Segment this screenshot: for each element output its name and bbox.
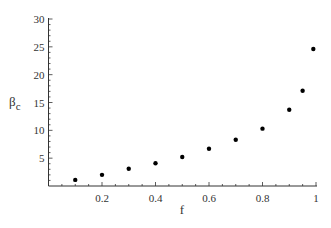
x-tick-label: 0.6 xyxy=(202,192,216,204)
y-axis-label: βc xyxy=(9,94,21,112)
scatter-chart: 0.20.40.60.8151015202530 f βc xyxy=(0,0,331,228)
axes: 0.20.40.60.8151015202530 xyxy=(34,13,319,204)
y-tick-label: 10 xyxy=(34,124,46,136)
data-point xyxy=(127,167,131,171)
x-tick-label: 0.8 xyxy=(256,192,270,204)
data-point xyxy=(100,173,104,177)
data-point xyxy=(180,155,184,159)
data-point xyxy=(73,178,77,182)
y-axis-label-subscript: c xyxy=(16,100,21,112)
data-points xyxy=(73,47,315,182)
x-tick-label: 1 xyxy=(313,192,319,204)
x-axis-label: f xyxy=(180,202,185,217)
x-tick-label: 0.2 xyxy=(95,192,109,204)
data-point xyxy=(311,47,315,51)
y-tick-label: 15 xyxy=(34,97,46,109)
data-point xyxy=(287,108,291,112)
y-tick-label: 25 xyxy=(34,41,46,53)
y-tick-label: 20 xyxy=(34,69,46,81)
y-tick-label: 5 xyxy=(39,152,45,164)
data-point xyxy=(234,138,238,142)
y-tick-label: 30 xyxy=(34,13,46,25)
data-point xyxy=(300,89,304,93)
data-point xyxy=(260,126,264,130)
data-point xyxy=(153,161,157,165)
data-point xyxy=(207,147,211,151)
x-tick-label: 0.4 xyxy=(149,192,163,204)
